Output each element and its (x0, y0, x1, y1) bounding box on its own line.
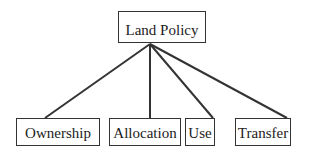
node-allocation: Allocation (109, 118, 181, 146)
node-ownership: Ownership (16, 118, 100, 146)
edge-transfer (150, 44, 287, 118)
node-label: Ownership (25, 125, 91, 142)
node-label: Use (188, 125, 211, 142)
edge-ownership (45, 44, 150, 118)
node-land-policy: Land Policy (118, 11, 206, 43)
node-label: Transfer (238, 125, 288, 142)
node-label: Land Policy (126, 22, 199, 39)
node-label: Allocation (113, 125, 176, 142)
edge-use (150, 44, 213, 118)
node-transfer: Transfer (235, 118, 291, 146)
node-use: Use (185, 118, 215, 146)
